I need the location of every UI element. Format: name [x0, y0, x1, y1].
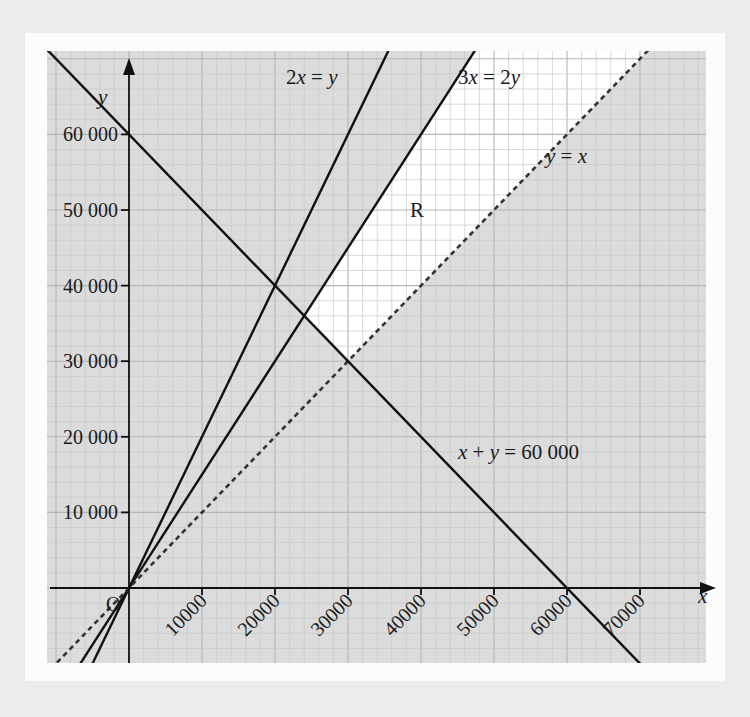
label-3x-eq-2y: 3x = 2y — [458, 65, 521, 89]
y-tick-label: 50 000 — [63, 199, 118, 221]
y-tick-label: 30 000 — [63, 350, 118, 372]
region-r-label: R — [410, 198, 424, 222]
label-2x-eq-y: 2x = y — [286, 65, 338, 89]
label-x-plus-y-eq-60000: x + y = 60 000 — [457, 440, 579, 464]
y-tick-label: 60 000 — [63, 123, 118, 145]
y-axis-label: y — [96, 85, 108, 109]
y-tick-label: 20 000 — [63, 426, 118, 448]
y-tick-label: 10 000 — [63, 501, 118, 523]
x-axis-label: x — [697, 584, 708, 608]
linear-programming-chart: 1000020000300004000050000600007000010 00… — [0, 0, 750, 717]
y-tick-label: 40 000 — [63, 275, 118, 297]
origin-label: O — [106, 593, 120, 615]
label-y-eq-x: y = x — [544, 144, 588, 168]
